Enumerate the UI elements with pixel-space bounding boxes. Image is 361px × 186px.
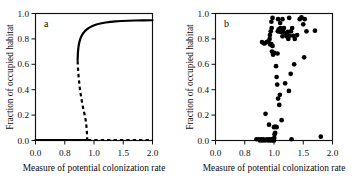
panel-b-svg: 0.0 0.2 0.4 0.6 0.8 1.0 0.0 0.8 1.0 1.5 … [180, 0, 361, 186]
scatter-point [270, 16, 275, 21]
scatter-point [289, 137, 294, 142]
panel-a-xtick-4: 2.0 [147, 148, 159, 158]
panel-a-x-tick-labels: 0.0 0.8 1.0 1.5 2.0 [30, 148, 159, 158]
panel-a-svg: 0.0 0.2 0.4 0.6 0.8 1.0 0.0 0.8 1.0 1.5 … [0, 0, 181, 186]
scatter-point [278, 92, 283, 97]
scatter-point [287, 16, 292, 21]
scatter-point [282, 26, 287, 31]
panel-a-xtick-2: 1.0 [88, 148, 100, 158]
scatter-point [301, 22, 306, 27]
scatter-point [287, 89, 292, 94]
panel-a-frame [36, 14, 153, 141]
panel-a-series-group [36, 20, 153, 140]
scatter-point [267, 122, 272, 127]
panel-b-ytick-5: 1.0 [198, 9, 210, 19]
scatter-point [275, 82, 280, 87]
panel-a-ytick-3: 0.6 [18, 59, 30, 69]
curve-upper-stable-branch [78, 20, 153, 60]
panel-a-plot-area [36, 14, 153, 141]
scatter-point [275, 51, 280, 56]
panel-a-x-axis-title: Measure of potential colonization rate [23, 163, 166, 173]
panel-b-xtick-2: 1.0 [268, 148, 280, 158]
panel-b-x-tick-labels: 0.0 0.8 1.0 1.5 2.0 [210, 148, 339, 158]
panel-b-xtick-1: 0.8 [239, 148, 251, 158]
scatter-point [270, 49, 275, 54]
panel-a-y-tick-labels: 0.0 0.2 0.4 0.6 0.8 1.0 [18, 9, 30, 146]
panel-b-ytick-4: 0.8 [198, 34, 210, 44]
panel-b-y-axis-title: Fraction of occupied habitat [185, 24, 195, 130]
panel-b-xtick-0: 0.0 [210, 148, 222, 158]
panel-b-ytick-3: 0.6 [198, 59, 210, 69]
panel-a-letter: a [44, 18, 49, 29]
panel-a-ytick-1: 0.2 [18, 110, 30, 120]
scatter-point [304, 29, 309, 34]
panel-a-ytick-4: 0.8 [18, 34, 30, 44]
panel-a-xtick-3: 1.5 [118, 148, 130, 158]
scatter-point [274, 64, 279, 69]
panel-b-y-ticks [212, 14, 216, 141]
curve-unstable-middle-branch [78, 61, 88, 140]
panel-a-y-axis-title: Fraction of occupied habitat [5, 24, 15, 130]
scatter-point [277, 103, 282, 108]
scatter-point [302, 17, 307, 22]
panel-a-x-ticks [36, 141, 153, 145]
panel-b-ytick-0: 0.0 [198, 136, 210, 146]
panel-b-ytick-1: 0.2 [198, 110, 210, 120]
scatter-point [288, 71, 293, 76]
scatter-point [278, 21, 283, 26]
scatter-point [269, 26, 274, 31]
scatter-point [302, 55, 307, 60]
scatter-point [279, 118, 284, 123]
panel-b-scatter-group [254, 15, 323, 143]
scatter-point [295, 33, 300, 38]
scatter-point [290, 26, 295, 31]
panel-b-y-tick-labels: 0.0 0.2 0.4 0.6 0.8 1.0 [198, 9, 210, 146]
scatter-point [273, 131, 278, 136]
panel-b-x-axis-title: Measure of potential colonization rate [203, 163, 346, 173]
scatter-point [263, 111, 268, 116]
scatter-point [292, 62, 297, 67]
figure-container: 0.0 0.2 0.4 0.6 0.8 1.0 0.0 0.8 1.0 1.5 … [0, 0, 361, 186]
panel-a-xtick-0: 0.0 [30, 148, 42, 158]
panel-b-xtick-4: 2.0 [327, 148, 339, 158]
panel-a-ytick-0: 0.0 [18, 136, 30, 146]
scatter-point [318, 134, 323, 139]
panel-a-ytick-2: 0.4 [18, 85, 30, 95]
panel-b: 0.0 0.2 0.4 0.6 0.8 1.0 0.0 0.8 1.0 1.5 … [180, 0, 361, 186]
panel-a-y-ticks [32, 14, 36, 141]
panel-b-ytick-2: 0.4 [198, 85, 210, 95]
scatter-point [283, 81, 288, 86]
scatter-point [274, 125, 279, 130]
scatter-point [274, 75, 279, 80]
panel-a: 0.0 0.2 0.4 0.6 0.8 1.0 0.0 0.8 1.0 1.5 … [0, 0, 181, 186]
panel-b-xtick-3: 1.5 [298, 148, 310, 158]
panel-a-ytick-5: 1.0 [18, 9, 30, 19]
panel-b-letter: b [224, 18, 229, 29]
scatter-point [313, 28, 318, 33]
panel-a-xtick-1: 0.8 [59, 148, 71, 158]
